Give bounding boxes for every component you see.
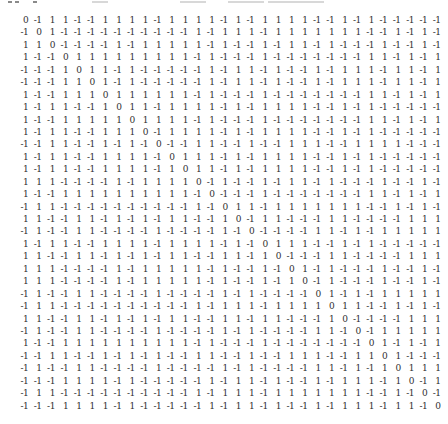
matrix-cell: -1	[44, 325, 57, 337]
matrix-cell: 1	[230, 201, 243, 213]
matrix-cell: -1	[203, 250, 216, 262]
matrix-cell: -1	[403, 126, 416, 138]
matrix-cell: 1	[310, 325, 323, 337]
matrix-cell: -1	[416, 163, 429, 175]
matrix-cell: -1	[216, 375, 229, 387]
matrix-cell: -1	[403, 350, 416, 362]
matrix-cell: 1	[403, 89, 416, 101]
matrix-cell: 1	[216, 288, 229, 300]
matrix-cell: -1	[70, 101, 83, 113]
matrix-cell: 1	[336, 14, 349, 26]
matrix-cell: 1	[17, 188, 30, 200]
matrix-cell: 1	[123, 188, 136, 200]
matrix-cell: -1	[429, 138, 442, 150]
matrix-cell: -1	[230, 337, 243, 349]
matrix-cell: 1	[296, 238, 309, 250]
matrix-cell: 1	[70, 337, 83, 349]
matrix-cell: -1	[310, 163, 323, 175]
matrix-cell: -1	[97, 313, 110, 325]
matrix-cell: 1	[336, 375, 349, 387]
matrix-cell: 1	[363, 126, 376, 138]
matrix-cell: -1	[283, 213, 296, 225]
matrix-cell: -1	[429, 263, 442, 275]
matrix-cell: 1	[57, 350, 70, 362]
matrix-cell: 1	[123, 51, 136, 63]
matrix-cell: 1	[310, 138, 323, 150]
matrix-cell: -1	[123, 288, 136, 300]
matrix-cell: 1	[57, 64, 70, 76]
clipped-text-mark	[180, 1, 206, 3]
matrix-cell: 1	[30, 263, 43, 275]
matrix-cell: -1	[70, 26, 83, 38]
matrix-cell: 1	[97, 51, 110, 63]
matrix-cell: 0	[256, 238, 269, 250]
matrix-cell: 1	[336, 151, 349, 163]
matrix-cell: -1	[296, 375, 309, 387]
matrix-cell: -1	[216, 64, 229, 76]
matrix-cell: -1	[177, 350, 190, 362]
matrix-cell: 1	[323, 176, 336, 188]
matrix-cell: -1	[230, 263, 243, 275]
matrix-cell: -1	[230, 362, 243, 374]
matrix-cell: -1	[323, 114, 336, 126]
matrix-cell: 1	[270, 300, 283, 312]
matrix-cell: 1	[110, 337, 123, 349]
matrix-cell: -1	[163, 400, 176, 412]
matrix-cell: 1	[403, 325, 416, 337]
matrix-row: -11-1-111-1-1-1-11-1-1-1-11-10-1-1-1-111…	[17, 225, 443, 237]
matrix-cell: 1	[323, 201, 336, 213]
matrix-cell: 1	[216, 250, 229, 262]
matrix-cell: -1	[323, 64, 336, 76]
matrix-cell: -1	[163, 138, 176, 150]
matrix-cell: 1	[70, 362, 83, 374]
matrix-cell: -1	[203, 39, 216, 51]
matrix-cell: -1	[270, 114, 283, 126]
matrix-cell: 1	[323, 275, 336, 287]
matrix-cell: 1	[17, 238, 30, 250]
matrix-cell: -1	[203, 387, 216, 399]
matrix-cell: -1	[44, 114, 57, 126]
matrix-cell: 1	[416, 275, 429, 287]
matrix-cell: 1	[150, 337, 163, 349]
matrix-cell: 1	[83, 114, 96, 126]
matrix-cell: -1	[83, 14, 96, 26]
matrix-cell: -1	[137, 138, 150, 150]
matrix-cell: -1	[310, 89, 323, 101]
matrix-cell: 1	[203, 89, 216, 101]
matrix-cell: -1	[243, 163, 256, 175]
matrix-cell: 1	[177, 263, 190, 275]
matrix-cell: 1	[296, 387, 309, 399]
matrix-cell: -1	[97, 300, 110, 312]
matrix-row: 1-111-1-11011-11111-11-11111-1-11-11-1-1…	[17, 101, 443, 113]
matrix-cell: 1	[190, 39, 203, 51]
matrix-cell: -1	[416, 126, 429, 138]
matrix-cell: -1	[230, 89, 243, 101]
matrix-cell: -1	[216, 76, 229, 88]
matrix-cell: -1	[270, 325, 283, 337]
matrix-cell: 1	[110, 275, 123, 287]
matrix-cell: 1	[363, 14, 376, 26]
matrix-cell: -1	[403, 238, 416, 250]
matrix-cell: -1	[376, 101, 389, 113]
matrix-cell: -1	[403, 163, 416, 175]
matrix-cell: 1	[44, 350, 57, 362]
matrix-row: -111-1-1-1-1-1-1-1-1-1-11-1111-11111011-…	[17, 300, 443, 312]
matrix-cell: -1	[70, 263, 83, 275]
matrix-cell: 1	[310, 387, 323, 399]
matrix-row: 111-1-1-1-11-111111-11-1-11-101-11-1-1-1…	[17, 263, 443, 275]
matrix-cell: -1	[310, 238, 323, 250]
matrix-cell: 1	[323, 250, 336, 262]
matrix-cell: 1	[70, 313, 83, 325]
matrix-cell: 1	[137, 337, 150, 349]
matrix-cell: -1	[70, 300, 83, 312]
matrix-cell: -1	[163, 362, 176, 374]
matrix-cell: 1	[270, 26, 283, 38]
matrix-cell: 1	[216, 263, 229, 275]
matrix-cell: 1	[177, 337, 190, 349]
matrix-cell: 1	[416, 288, 429, 300]
matrix-cell: 1	[376, 39, 389, 51]
matrix-cell: -1	[416, 76, 429, 88]
matrix-cell: -1	[323, 89, 336, 101]
matrix-cell: -1	[97, 275, 110, 287]
matrix-cell: 1	[230, 387, 243, 399]
